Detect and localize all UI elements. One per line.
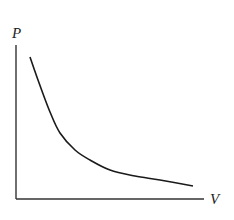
pv-diagram: P V (0, 0, 234, 220)
diagram-canvas (0, 0, 234, 220)
y-axis-label: P (12, 26, 21, 41)
x-axis-label: V (210, 192, 219, 207)
pv-curve (30, 57, 193, 186)
